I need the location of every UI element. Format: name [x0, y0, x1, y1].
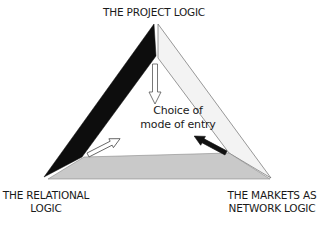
vertex-label-relational-logic: THE RELATIONAL LOGIC [0, 189, 92, 215]
vertex-label-line: LOGIC [0, 202, 92, 215]
left-side-band [44, 24, 156, 177]
arrow-down-icon [149, 64, 161, 104]
center-label-choice-of-mode-of-entry: Choice of mode of entry [118, 104, 238, 132]
vertex-label-project-logic: THE PROJECT LOGIC [0, 6, 308, 19]
figure-caption-clipped [76, 220, 276, 228]
vertex-label-line: THE RELATIONAL [0, 189, 92, 202]
center-label-line: mode of entry [118, 118, 238, 132]
vertex-label-line: NETWORK LOGIC [218, 202, 326, 215]
center-label-line: Choice of [118, 104, 238, 118]
vertex-label-markets-network-logic: THE MARKETS AS NETWORK LOGIC [218, 189, 326, 215]
vertex-label-line: THE MARKETS AS [218, 189, 326, 202]
